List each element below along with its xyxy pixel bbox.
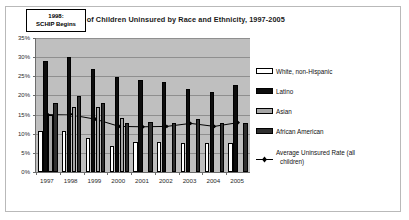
x-axis-tick-label: 2005 (225, 177, 249, 184)
y-axis-tick-label: 0% (6, 169, 30, 175)
bar-african-2002 (172, 123, 176, 172)
x-axis-tick-label: 2001 (130, 177, 154, 184)
y-axis-tick-mark (33, 134, 36, 135)
bar-white-1998 (62, 131, 66, 172)
bar-white-2003 (181, 143, 185, 172)
bar-asian-1997 (48, 115, 52, 172)
x-axis-tick-mark (179, 172, 180, 175)
bar-african-1997 (53, 103, 57, 172)
x-axis-tick-mark (202, 172, 203, 175)
y-axis-tick-mark (33, 76, 36, 77)
x-axis-tick-mark (107, 172, 108, 175)
bar-african-1998 (77, 96, 81, 172)
y-axis-tick-label: 15% (6, 112, 30, 118)
legend-label-average-rate-line2: children) (276, 157, 355, 166)
y-axis-tick-label: 30% (6, 54, 30, 60)
legend-swatch-latino (256, 88, 273, 94)
gridline (36, 38, 250, 39)
x-axis-tick-label: 2003 (178, 177, 202, 184)
legend-label-white: White, non-Hispanic (276, 67, 332, 76)
legend-item-latino: Latino (256, 87, 396, 96)
bar-asian-1999 (96, 107, 100, 172)
x-axis-tick-mark (36, 172, 37, 175)
legend-swatch-african-american (256, 128, 273, 134)
x-axis-tick-mark (84, 172, 85, 175)
legend-swatch-white (256, 68, 273, 74)
x-axis-tick-mark (155, 172, 156, 175)
legend-label-average-rate: Average Uninsured Rate (all children) (276, 148, 355, 166)
y-axis-tick-mark (33, 153, 36, 154)
x-axis-tick-label: 1997 (35, 177, 59, 184)
x-axis-tick-mark (226, 172, 227, 175)
bar-asian-1998 (72, 107, 76, 172)
legend-item-african-american: African American (256, 127, 396, 136)
bar-white-1999 (86, 138, 90, 172)
bar-white-2000 (110, 146, 114, 172)
bar-latino-1997 (43, 61, 47, 172)
y-axis-tick-mark (33, 95, 36, 96)
bar-latino-2004 (210, 92, 214, 172)
x-axis-tick-mark (131, 172, 132, 175)
bar-latino-1999 (91, 69, 95, 172)
chart-legend: White, non-Hispanic Latino Asian African… (256, 67, 396, 177)
bar-latino-2005 (233, 85, 237, 172)
legend-item-average-rate: Average Uninsured Rate (all children) (256, 148, 396, 166)
schip-annotation-line2: SCHIP Begins (36, 21, 76, 27)
x-axis-tick-label: 1999 (83, 177, 107, 184)
bar-latino-2001 (138, 80, 142, 172)
y-axis-tick-mark (33, 38, 36, 39)
bar-african-2004 (220, 123, 224, 172)
chart-container: Percent of Children Uninsured by Race an… (5, 6, 401, 212)
bar-white-2004 (205, 143, 209, 172)
x-axis-tick-label: 1998 (59, 177, 83, 184)
bar-african-2000 (125, 123, 129, 172)
legend-label-african-american: African American (276, 127, 324, 136)
bar-african-2003 (196, 119, 200, 172)
legend-marker-line-icon (256, 149, 273, 156)
bar-latino-2002 (162, 82, 166, 172)
bar-latino-2003 (186, 89, 190, 172)
bar-asian-2000 (120, 118, 124, 172)
plot-area (35, 38, 250, 173)
legend-swatch-asian (256, 108, 273, 114)
x-axis-tick-label: 2004 (201, 177, 225, 184)
bar-latino-1998 (67, 57, 71, 172)
legend-label-asian: Asian (276, 107, 292, 116)
bar-latino-2000 (115, 77, 119, 172)
x-axis-tick-mark (60, 172, 61, 175)
legend-label-latino: Latino (276, 87, 293, 96)
legend-item-white: White, non-Hispanic (256, 67, 396, 76)
bar-white-1997 (38, 131, 42, 172)
y-axis-tick-mark (33, 57, 36, 58)
y-axis-tick-label: 35% (6, 35, 30, 41)
legend-item-asian: Asian (256, 107, 396, 116)
bar-white-2005 (228, 143, 232, 172)
y-axis-tick-label: 10% (6, 131, 30, 137)
bar-african-1999 (101, 103, 105, 172)
y-axis-tick-mark (33, 115, 36, 116)
bar-african-2001 (148, 122, 152, 172)
x-axis-tick-label: 2002 (154, 177, 178, 184)
y-axis-tick-label: 20% (6, 92, 30, 98)
legend-label-average-rate-line1: Average Uninsured Rate (all (276, 149, 355, 156)
y-axis-tick-label: 25% (6, 73, 30, 79)
schip-annotation: 1998: SCHIP Begins (26, 9, 86, 32)
x-axis-tick-label: 2000 (106, 177, 130, 184)
bar-white-2002 (157, 142, 161, 172)
y-axis-tick-label: 5% (6, 150, 30, 156)
bar-white-2001 (133, 142, 137, 172)
bar-african-2005 (243, 123, 247, 172)
schip-annotation-line1: 1998: (48, 13, 63, 19)
